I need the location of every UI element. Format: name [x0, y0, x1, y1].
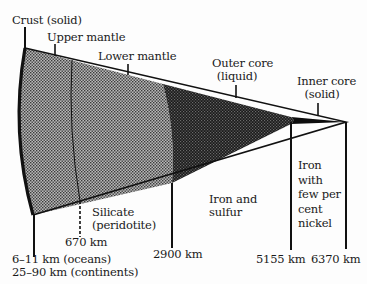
- label-iron-nickel-line1: Iron: [298, 158, 341, 173]
- label-inner-core-line2: (solid): [297, 88, 347, 101]
- label-crust-continents: 25–90 km (continents): [12, 266, 138, 279]
- label-5155km: 5155 km: [256, 253, 305, 266]
- mantle-region: [19, 48, 173, 215]
- earth-structure-diagram: Crust (solid) Upper mantle Lower mantle …: [0, 0, 367, 284]
- label-iron-sulfur: Iron and sulfur: [209, 193, 257, 219]
- label-iron-nickel-line3: few per: [298, 187, 341, 202]
- label-outer-core: Outer core (liquid): [212, 57, 262, 83]
- label-silicate: Silicate (peridotite): [92, 206, 156, 232]
- label-iron-nickel-line2: with: [298, 173, 341, 188]
- label-iron-nickel-line4: cent: [298, 202, 341, 217]
- outer-core-region: [163, 84, 294, 183]
- label-6370km: 6370 km: [311, 253, 360, 266]
- label-670km: 670 km: [65, 236, 107, 249]
- label-outer-core-line2: (liquid): [212, 70, 262, 83]
- label-crust: Crust (solid): [12, 14, 82, 27]
- label-silicate-line2: (peridotite): [92, 219, 156, 232]
- label-iron-sulfur-line2: sulfur: [209, 206, 257, 219]
- label-iron-nickel: Iron with few per cent nickel: [298, 158, 341, 231]
- label-2900km: 2900 km: [153, 248, 202, 261]
- label-iron-nickel-line5: nickel: [298, 216, 341, 231]
- label-lower-mantle: Lower mantle: [98, 50, 176, 63]
- label-inner-core: Inner core (solid): [297, 75, 347, 101]
- label-upper-mantle: Upper mantle: [47, 31, 125, 44]
